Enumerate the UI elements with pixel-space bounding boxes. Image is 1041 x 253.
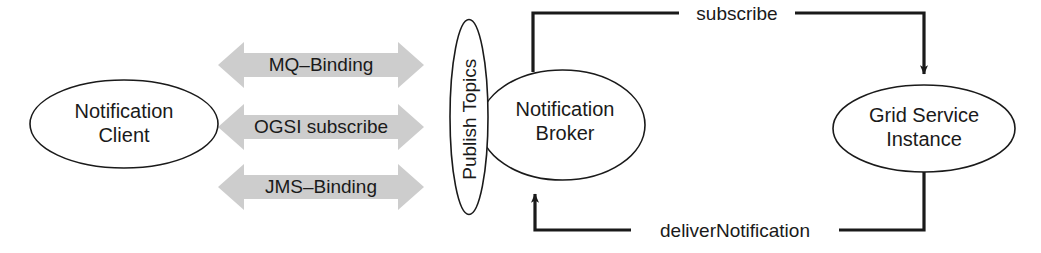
edge-subscribe-path: [533, 13, 924, 74]
ellipse-grid-service-instance[interactable]: [833, 85, 1015, 172]
ellipse-notification-broker[interactable]: [480, 70, 645, 180]
edge-deliver-notification-path: [535, 170, 924, 230]
binding-arrow-jms-binding[interactable]: [218, 164, 424, 210]
diagram-vector-layer: [0, 0, 1041, 253]
ellipse-notification-client[interactable]: [30, 80, 218, 168]
binding-arrow-mq-binding[interactable]: [218, 42, 424, 88]
ellipse-publish-topics[interactable]: [450, 20, 488, 215]
notification-architecture-diagram: Notification Client Publish Topics Notif…: [0, 0, 1041, 253]
binding-arrow-ogsi-subscribe[interactable]: [218, 104, 424, 150]
